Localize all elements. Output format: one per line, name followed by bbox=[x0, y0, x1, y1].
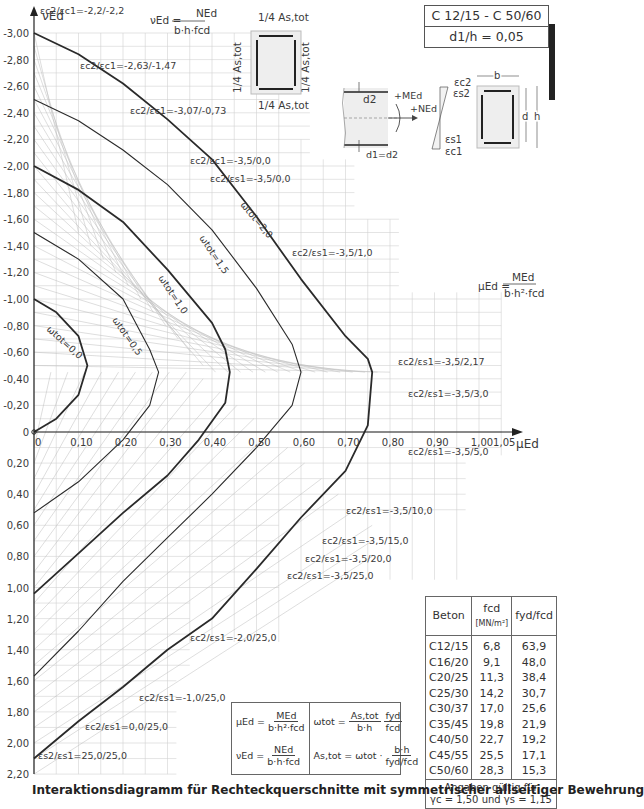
svg-text:0,60: 0,60 bbox=[293, 437, 315, 448]
svg-text:h: h bbox=[534, 111, 540, 122]
svg-text:-0,20: -0,20 bbox=[3, 400, 29, 411]
svg-text:εc2/εs1=0,0/25,0: εc2/εs1=0,0/25,0 bbox=[85, 721, 168, 732]
svg-text:-2,60: -2,60 bbox=[3, 81, 29, 92]
svg-text:-2,40: -2,40 bbox=[3, 108, 29, 119]
svg-text:0,80: 0,80 bbox=[382, 437, 404, 448]
table-row: C16/209,148,0 bbox=[426, 655, 557, 671]
svg-text:0,40: 0,40 bbox=[204, 437, 226, 448]
table-row: C35/4519,821,9 bbox=[426, 717, 557, 733]
svg-text:0,40: 0,40 bbox=[7, 489, 29, 500]
svg-text:-1,80: -1,80 bbox=[3, 188, 29, 199]
svg-text:εs2: εs2 bbox=[453, 88, 470, 99]
mu-definition: μEd = MEdb·h²·fcd bbox=[236, 710, 305, 733]
svg-text:-2,80: -2,80 bbox=[3, 55, 29, 66]
svg-text:1,40: 1,40 bbox=[7, 645, 29, 656]
svg-text:2,20: 2,20 bbox=[7, 769, 29, 780]
nu-formula: νEd = NEd b·h·fcd bbox=[150, 7, 217, 36]
svg-text:εc2/εs1=-1,0/25,0: εc2/εs1=-1,0/25,0 bbox=[139, 692, 226, 703]
svg-text:εc2/εs1=-3,5/5,0: εc2/εs1=-3,5/5,0 bbox=[408, 446, 489, 457]
svg-text:1/4 As,tot: 1/4 As,tot bbox=[258, 99, 309, 111]
svg-text:0,70: 0,70 bbox=[337, 437, 359, 448]
svg-text:0,20: 0,20 bbox=[7, 458, 29, 469]
svg-text:1,80: 1,80 bbox=[7, 707, 29, 718]
As-definition: As,tot = ωtot · b·hfyd/fcd bbox=[314, 744, 419, 767]
cover-ratio-label: d1/h = 0,05 bbox=[425, 26, 548, 47]
x-axis-label: μEd bbox=[516, 437, 539, 451]
table-row: C40/5022,719,2 bbox=[426, 732, 557, 748]
svg-text:εc1: εc1 bbox=[445, 146, 462, 157]
col-fyd-fcd: fyd/fcd bbox=[512, 597, 557, 636]
svg-text:+MEd: +MEd bbox=[394, 90, 422, 101]
svg-text:ωtot=0,0: ωtot=0,0 bbox=[45, 323, 85, 361]
svg-text:0,60: 0,60 bbox=[7, 520, 29, 531]
svg-text:εc2/εc1=-3,07/-0,73: εc2/εc1=-3,07/-0,73 bbox=[130, 105, 226, 116]
svg-text:εc2/εs1=-3,5/3,0: εc2/εs1=-3,5/3,0 bbox=[408, 388, 489, 399]
y-axis-label: νEd bbox=[42, 9, 64, 23]
svg-text:εc2/εs1=-3,5/25,0: εc2/εs1=-3,5/25,0 bbox=[287, 570, 374, 581]
concrete-range-box: C 12/15 - C 50/60 d1/h = 0,05 bbox=[424, 5, 549, 48]
svg-text:2,00: 2,00 bbox=[7, 738, 29, 749]
svg-text:εc2/εs1=-3,5/1,0: εc2/εs1=-3,5/1,0 bbox=[292, 247, 373, 258]
svg-text:0: 0 bbox=[35, 437, 41, 448]
svg-text:0: 0 bbox=[23, 427, 29, 438]
svg-text:εc2/εs1=-3,5/15,0: εc2/εs1=-3,5/15,0 bbox=[322, 535, 409, 546]
svg-text:-3,00: -3,00 bbox=[3, 28, 29, 39]
svg-text:1,05: 1,05 bbox=[493, 437, 515, 448]
table-row: C45/5525,517,1 bbox=[426, 748, 557, 764]
table-row: C50/6028,315,3 bbox=[426, 763, 557, 779]
omega-definition: ωtot = As,totb·h fydfcd bbox=[314, 710, 419, 733]
figure-caption: Interaktionsdiagramm für Rechteckquersch… bbox=[32, 783, 644, 797]
svg-text:b·h²·fcd: b·h²·fcd bbox=[504, 287, 544, 299]
svg-text:εc2/εs1=-2,0/25,0: εc2/εs1=-2,0/25,0 bbox=[190, 632, 277, 643]
nu-definition: νEd = NEdb·h·fcd bbox=[236, 744, 305, 767]
table-row: C12/156,863,9 bbox=[426, 636, 557, 655]
svg-text:0,10: 0,10 bbox=[70, 437, 92, 448]
svg-text:-1,40: -1,40 bbox=[3, 241, 29, 252]
svg-text:ωtot=2,0: ωtot=2,0 bbox=[238, 199, 275, 240]
strain-annotations: εc2/εc1=-2,2/-2,2εc2/εc1=-2,63/-1,47εc2/… bbox=[38, 5, 489, 761]
svg-text:-2,20: -2,20 bbox=[3, 134, 29, 145]
formula-box: μEd = MEdb·h²·fcd νEd = NEdb·h·fcd ωtot … bbox=[231, 702, 401, 775]
svg-text:+NEd: +NEd bbox=[410, 103, 437, 114]
table-row: C30/3717,025,6 bbox=[426, 701, 557, 717]
concrete-range-label: C 12/15 - C 50/60 bbox=[425, 6, 548, 26]
svg-text:0,80: 0,80 bbox=[7, 551, 29, 562]
svg-text:b·h·fcd: b·h·fcd bbox=[174, 24, 210, 36]
svg-text:0,50: 0,50 bbox=[248, 437, 270, 448]
svg-text:-1,20: -1,20 bbox=[3, 267, 29, 278]
svg-text:1,00: 1,00 bbox=[7, 583, 29, 594]
svg-text:d1=d2: d1=d2 bbox=[366, 149, 398, 160]
svg-text:-1,60: -1,60 bbox=[3, 214, 29, 225]
svg-text:1,60: 1,60 bbox=[7, 676, 29, 687]
svg-text:-0,40: -0,40 bbox=[3, 374, 29, 385]
svg-text:-0,80: -0,80 bbox=[3, 321, 29, 332]
svg-text:-1,00: -1,00 bbox=[3, 294, 29, 305]
section-diagram-reinforcement: 1/4 As,tot 1/4 As,tot 1/4 As,tot 1/4 As,… bbox=[231, 11, 311, 111]
svg-text:b: b bbox=[494, 70, 500, 81]
svg-text:d: d bbox=[522, 111, 528, 122]
svg-text:εc2/εc1=-3,5/0,0: εc2/εc1=-3,5/0,0 bbox=[190, 155, 271, 166]
svg-text:-2,00: -2,00 bbox=[3, 161, 29, 172]
svg-text:NEd: NEd bbox=[196, 7, 217, 19]
svg-text:1/4 As,tot: 1/4 As,tot bbox=[231, 42, 243, 93]
page-tab-marker bbox=[549, 24, 555, 100]
svg-text:εc2/εs1=-3,5/0,0: εc2/εs1=-3,5/0,0 bbox=[210, 173, 291, 184]
svg-text:d2: d2 bbox=[363, 93, 376, 105]
svg-text:ωtot=0,5: ωtot=0,5 bbox=[110, 315, 144, 358]
col-beton: Beton bbox=[426, 597, 472, 636]
concrete-table: Beton fcd[MN/m²] fyd/fcd C12/156,863,9C1… bbox=[425, 596, 557, 809]
svg-text:εs1: εs1 bbox=[445, 134, 462, 145]
svg-text:MEd: MEd bbox=[512, 271, 534, 283]
mu-formula: μEd = MEd b·h²·fcd bbox=[478, 271, 544, 299]
svg-text:εc2/εc1=-2,63/-1,47: εc2/εc1=-2,63/-1,47 bbox=[80, 60, 176, 71]
svg-text:εs2/εs1=25,0/25,0: εs2/εs1=25,0/25,0 bbox=[38, 750, 127, 761]
svg-text:εc2: εc2 bbox=[454, 77, 471, 88]
svg-text:0,20: 0,20 bbox=[115, 437, 137, 448]
svg-text:0,30: 0,30 bbox=[159, 437, 181, 448]
svg-text:εc2/εs1=-3,5/10,0: εc2/εs1=-3,5/10,0 bbox=[346, 505, 433, 516]
svg-text:1,20: 1,20 bbox=[7, 614, 29, 625]
svg-text:εc2/εs1=-3,5/20,0: εc2/εs1=-3,5/20,0 bbox=[305, 553, 392, 564]
table-row: C20/2511,338,4 bbox=[426, 670, 557, 686]
svg-text:1/4 As,tot: 1/4 As,tot bbox=[258, 11, 309, 23]
table-row: C25/3014,230,7 bbox=[426, 686, 557, 702]
